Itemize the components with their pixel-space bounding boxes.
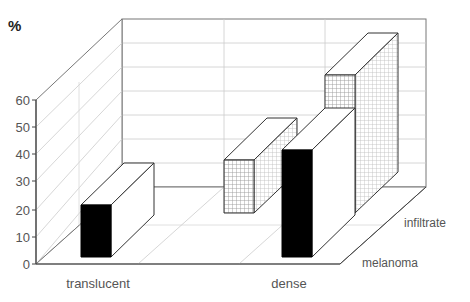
y-tick-label-0: 0 [23, 257, 30, 272]
x-category-label-translucent: translucent [66, 276, 130, 291]
chart-container: % 0 10 20 30 40 50 60 translucent dense … [0, 0, 470, 302]
y-axis-unit-label: % [8, 17, 21, 34]
depth-category-label-infiltrate: infiltrate [404, 216, 446, 230]
y-tick-label-20: 20 [16, 203, 30, 218]
y-tick-label-50: 50 [16, 120, 30, 135]
bar-front-face [224, 160, 254, 213]
bar-front-face [282, 150, 312, 257]
y-tick-label-40: 40 [16, 147, 30, 162]
depth-category-label-melanoma: melanoma [362, 256, 418, 270]
bar-front-face [81, 205, 111, 257]
bar-chart-3d: % 0 10 20 30 40 50 60 translucent dense … [0, 0, 470, 302]
y-tick-label-10: 10 [16, 230, 30, 245]
x-category-label-dense: dense [271, 276, 306, 291]
y-tick-label-30: 30 [16, 174, 30, 189]
y-tick-label-60: 60 [16, 93, 30, 108]
